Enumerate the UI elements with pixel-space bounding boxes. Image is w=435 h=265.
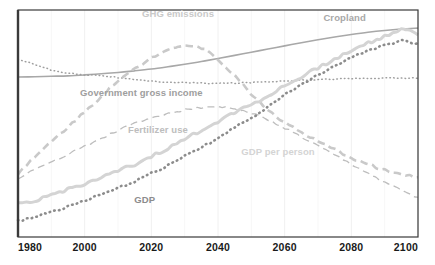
series-label-gdp-per-person: GDP per person xyxy=(241,146,315,157)
series-label-ghg-emissions: GHG emissions xyxy=(142,8,214,19)
chart-container: CroplandGovernment gross incomeGHG emiss… xyxy=(0,0,435,265)
x-tick-2000: 2000 xyxy=(73,241,97,253)
x-tick-1980: 1980 xyxy=(18,241,42,253)
x-tick-2060: 2060 xyxy=(273,241,297,253)
series-label-fertilizer-use: Fertilizer use xyxy=(128,124,188,135)
x-tick-2020: 2020 xyxy=(139,241,163,253)
x-tick-2040: 2040 xyxy=(206,241,230,253)
x-axis-tick-labels: 1980200020202040206020802100 xyxy=(18,241,418,253)
series-label-cropland: Cropland xyxy=(323,12,366,23)
x-tick-2100: 2100 xyxy=(394,241,418,253)
x-tick-2080: 2080 xyxy=(339,241,363,253)
projection-line-chart: CroplandGovernment gross incomeGHG emiss… xyxy=(0,0,435,265)
series-label-gdp: GDP xyxy=(134,194,155,205)
series-label-government-gross-income: Government gross income xyxy=(80,87,203,98)
